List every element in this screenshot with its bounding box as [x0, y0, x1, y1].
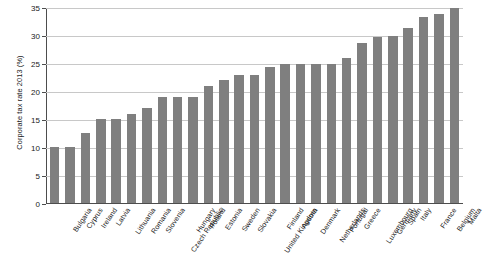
- bar: [65, 147, 75, 203]
- y-tick-label: 20: [31, 88, 40, 97]
- y-tick-mark: [42, 64, 46, 65]
- x-axis-label: Denmark: [318, 206, 342, 236]
- bar: [81, 133, 91, 203]
- y-tick-mark: [42, 92, 46, 93]
- bar: [403, 28, 413, 203]
- y-tick-mark: [42, 8, 46, 9]
- bars-series: [47, 8, 463, 203]
- y-tick-label: 25: [31, 60, 40, 69]
- bar: [280, 64, 290, 203]
- bar: [219, 80, 229, 203]
- y-tick-mark: [42, 148, 46, 149]
- bar: [311, 64, 321, 203]
- bar: [234, 75, 244, 203]
- bar: [450, 8, 460, 203]
- bar: [50, 147, 60, 203]
- bar: [373, 37, 383, 203]
- y-tick-label: 0: [36, 200, 40, 209]
- y-tick-mark: [42, 36, 46, 37]
- y-tick-label: 30: [31, 32, 40, 41]
- bar: [434, 14, 444, 203]
- y-tick-label: 35: [31, 4, 40, 13]
- y-tick-label: 15: [31, 116, 40, 125]
- bar: [188, 97, 198, 203]
- bar: [296, 64, 306, 203]
- x-axis-category-labels: BulgariaCyprusIrelandLatviaLithuaniaRoma…: [47, 206, 464, 273]
- y-tick-label: 10: [31, 144, 40, 153]
- x-axis-line: [46, 203, 463, 204]
- bar: [96, 119, 106, 203]
- bar: [142, 108, 152, 203]
- bar: [342, 58, 352, 203]
- bar: [327, 64, 337, 203]
- bar: [111, 119, 121, 203]
- bar: [265, 67, 275, 204]
- y-tick-label: 5: [36, 172, 40, 181]
- bar: [127, 114, 137, 203]
- bar: [388, 36, 398, 203]
- y-axis-title: Corporate tax rate 2013 (%): [15, 23, 24, 183]
- bar: [158, 97, 168, 203]
- bar: [357, 43, 367, 203]
- y-tick-mark: [42, 176, 46, 177]
- y-tick-mark: [42, 204, 46, 205]
- plot-area: 05101520253035: [46, 8, 463, 204]
- y-tick-mark: [42, 120, 46, 121]
- bar: [250, 75, 260, 203]
- bar: [173, 97, 183, 203]
- bar: [419, 17, 429, 203]
- bar: [204, 86, 214, 203]
